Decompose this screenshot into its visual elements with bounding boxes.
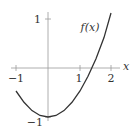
x-axis-label: x [123, 60, 130, 73]
y-tick-label: 1 [34, 13, 41, 26]
x-tick-label: 2 [108, 72, 115, 85]
x-tick-label: 1 [76, 72, 83, 85]
x-tick-label: −1 [8, 72, 24, 85]
function-plot: −1 1 2 x 1 −1 f(x) [0, 0, 136, 138]
y-tick-label: −1 [27, 116, 43, 129]
curve-label: f(x) [80, 21, 100, 34]
